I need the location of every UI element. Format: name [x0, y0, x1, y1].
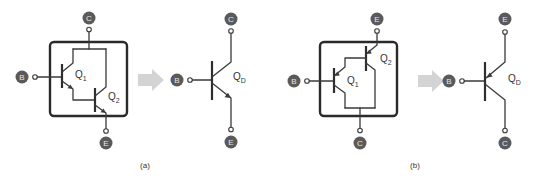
q2-collector — [95, 49, 106, 96]
q2-emitter — [366, 33, 377, 54]
q1-emitter — [62, 81, 95, 100]
emitter-node-label: E — [502, 15, 507, 24]
emitter-terminal-pin — [375, 29, 380, 34]
panel-a-composite: C B Q1 Q2 — [16, 12, 128, 150]
q2-label: Q2 — [380, 53, 392, 66]
q2-label: Q2 — [108, 91, 120, 104]
base-node-label: B — [446, 77, 451, 86]
qd-collector — [485, 84, 505, 128]
panel-b-equivalent: B E C QD — [443, 13, 521, 150]
panel-b-caption: (b) — [410, 161, 420, 170]
collector-terminal-pin — [229, 29, 234, 34]
transistor-q2: Q2 — [366, 33, 392, 108]
collector-terminal-pin — [503, 128, 508, 133]
transistor-q1: Q1 — [62, 49, 95, 100]
panel-b-composite: E Q2 B Q1 — [288, 13, 398, 150]
qd-label: QD — [508, 73, 521, 86]
transistor-q1: Q1 — [334, 58, 366, 108]
base-node-label: B — [19, 73, 24, 82]
equivalence-arrow-icon — [138, 69, 164, 91]
qd-emitter — [212, 83, 231, 127]
base-terminal-pin — [305, 79, 310, 84]
panel-a-equivalent: B C E QD — [171, 13, 246, 149]
q1-emitter — [334, 58, 366, 76]
qd-collector — [212, 33, 231, 77]
emitter-terminal-pin — [229, 127, 234, 132]
q2-collector — [366, 63, 375, 108]
emitter-terminal-pin — [104, 129, 109, 134]
equivalence-arrow-icon — [418, 70, 444, 92]
qd-label: QD — [233, 71, 246, 84]
q1-collector — [334, 85, 345, 108]
emitter-node-label: E — [228, 138, 233, 147]
q1-label: Q1 — [347, 75, 359, 88]
collector-node-label: C — [228, 15, 234, 24]
emitter-node-label: E — [103, 139, 108, 148]
base-terminal-pin — [460, 79, 465, 84]
panel-a-caption: (a) — [140, 161, 150, 170]
collector-terminal-pin — [358, 128, 363, 133]
collector-terminal-pin — [87, 27, 92, 32]
base-node-label: B — [174, 76, 179, 85]
panel-a: C B Q1 Q2 — [16, 12, 246, 171]
collector-node-label: C — [357, 139, 363, 148]
qd-emitter — [486, 34, 505, 78]
emitter-terminal-pin — [503, 30, 508, 35]
emitter-node-label: E — [374, 15, 379, 24]
panel-b: E Q2 B Q1 — [288, 13, 521, 171]
collector-node-label: C — [86, 14, 92, 23]
q1-label: Q1 — [75, 69, 87, 82]
base-terminal-pin — [33, 75, 38, 80]
collector-node-label: C — [502, 139, 508, 148]
base-terminal-pin — [188, 78, 193, 83]
darlington-diagram: C B Q1 Q2 — [0, 0, 536, 181]
base-node-label: B — [291, 77, 296, 86]
q1-collector — [62, 49, 73, 72]
